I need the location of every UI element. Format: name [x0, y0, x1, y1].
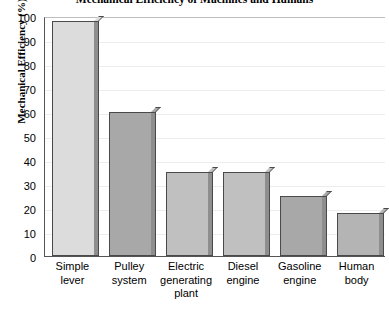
bar-top-face — [151, 107, 161, 112]
category-label-line: generating — [160, 274, 212, 286]
category-label-line: lever — [60, 274, 84, 286]
y-axis-tick-label: 20 — [0, 204, 36, 216]
bar-side-face — [379, 213, 384, 256]
bar[interactable] — [109, 112, 151, 256]
category-label-line: plant — [174, 287, 198, 299]
y-axis-tick-label: 30 — [0, 180, 36, 192]
bar-top-face — [94, 16, 104, 21]
x-axis-category-label: Pulleysystem — [101, 260, 158, 287]
bar-slot — [280, 18, 322, 256]
category-label-line: engine — [283, 274, 316, 286]
bar-slot — [52, 18, 94, 256]
category-label-line: Electric — [168, 260, 204, 272]
bars-group — [45, 18, 385, 256]
bar-slot — [166, 18, 208, 256]
bar[interactable] — [166, 172, 208, 256]
x-axis-category-label: Gasolineengine — [271, 260, 328, 287]
category-label-line: Diesel — [228, 260, 259, 272]
plot-area: 1009080706050403020100 — [44, 17, 385, 257]
x-axis-category-label: Electricgeneratingplant — [158, 260, 215, 301]
category-label-line: Human — [339, 260, 374, 272]
y-axis-tick-label: 10 — [0, 228, 36, 240]
bar-side-face — [94, 21, 99, 256]
y-axis-tick-label: 100 — [0, 12, 36, 24]
y-axis-tick-label: 40 — [0, 156, 36, 168]
category-label-line: Simple — [56, 260, 90, 272]
category-label-line: Pulley — [114, 260, 144, 272]
category-label-line: body — [345, 274, 369, 286]
y-axis-tick-label: 90 — [0, 36, 36, 48]
y-axis-tick-label: 80 — [0, 60, 36, 72]
category-label-line: Gasoline — [278, 260, 321, 272]
bar[interactable] — [223, 172, 265, 256]
x-axis-category-label: Simplelever — [44, 260, 101, 287]
y-axis-tick-label: 70 — [0, 84, 36, 96]
bar-chart-figure: Mechanical Efficiency of Machines and Hu… — [0, 0, 389, 314]
x-axis-category-label: Humanbody — [328, 260, 385, 287]
y-axis-tick-label: 60 — [0, 108, 36, 120]
bar[interactable] — [280, 196, 322, 256]
x-axis-category-labels: SimpleleverPulleysystemElectricgeneratin… — [44, 260, 385, 314]
bar-top-face — [208, 167, 218, 172]
bar-side-face — [151, 112, 156, 256]
x-axis-category-label: Dieselengine — [215, 260, 272, 287]
bar-top-face — [322, 191, 332, 196]
y-axis-tick-label: 0 — [0, 252, 36, 264]
bar-side-face — [322, 196, 327, 256]
chart-title: Mechanical Efficiency of Machines and Hu… — [0, 0, 389, 5]
bar-slot — [337, 18, 379, 256]
bar-top-face — [265, 167, 275, 172]
bar-side-face — [265, 172, 270, 256]
bar-top-face — [379, 208, 389, 213]
bar-slot — [223, 18, 265, 256]
category-label-line: engine — [226, 274, 259, 286]
bar[interactable] — [52, 21, 94, 256]
bar[interactable] — [337, 213, 379, 256]
category-label-line: system — [112, 274, 147, 286]
bar-slot — [109, 18, 151, 256]
y-axis-tick-label: 50 — [0, 132, 36, 144]
bar-side-face — [208, 172, 213, 256]
